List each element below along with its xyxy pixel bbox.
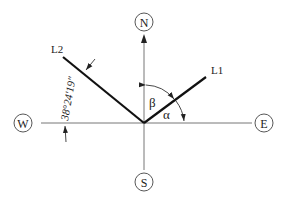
l2-dimension-arrow bbox=[86, 59, 95, 70]
south-label: S bbox=[141, 176, 148, 190]
l1-label: L1 bbox=[211, 64, 223, 76]
west-label: W bbox=[17, 117, 29, 131]
alpha-arc bbox=[176, 101, 184, 121]
north-label: N bbox=[140, 16, 149, 30]
direction-east: E bbox=[255, 114, 273, 132]
compass-diagram: N S W E L1 L2 38°24′19″ β α bbox=[0, 0, 286, 201]
direction-west: W bbox=[14, 114, 32, 132]
alpha-label: α bbox=[163, 107, 170, 122]
east-label: E bbox=[260, 117, 267, 131]
direction-north: N bbox=[135, 13, 153, 31]
beta-label: β bbox=[149, 95, 156, 110]
direction-south: S bbox=[135, 173, 153, 191]
north-arrow-icon bbox=[141, 34, 147, 43]
l2-bearing-label: 38°24′19″ bbox=[58, 75, 78, 122]
l2-label: L2 bbox=[51, 43, 63, 55]
w-axis-dimension-arrow bbox=[65, 126, 66, 142]
